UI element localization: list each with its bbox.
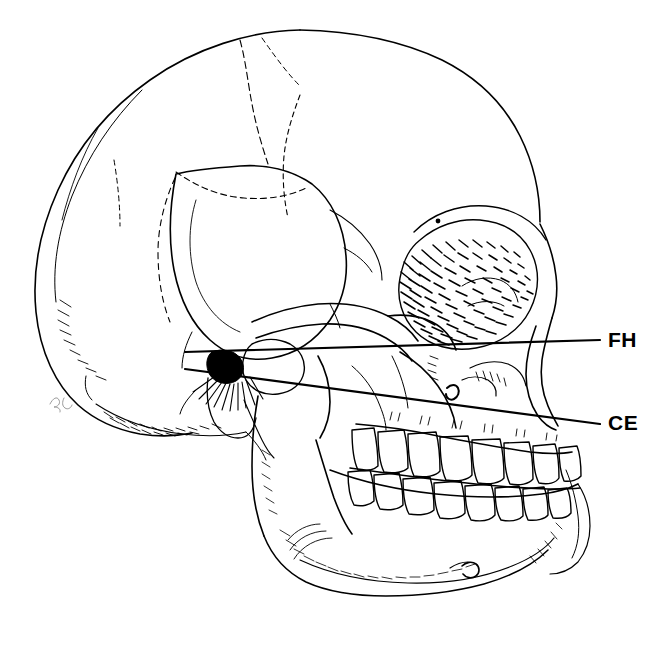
ce-line-label: CE <box>608 412 638 433</box>
skull-illustration <box>0 0 657 647</box>
skull-figure: FH CE <box>0 0 657 647</box>
fh-line-label: FH <box>608 329 637 350</box>
supraorbital-foramen <box>436 219 441 224</box>
